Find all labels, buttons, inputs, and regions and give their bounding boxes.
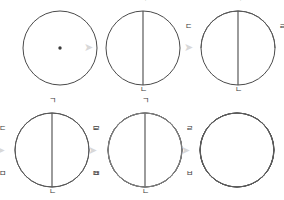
arc-giyeok-to-bieup: [237, 113, 274, 168]
right-arrow-icon: ➤: [184, 42, 193, 53]
arc-digeut-to-rieul: [200, 150, 274, 187]
step-3-panel: ㄱ ㄴ ㄷ ㄹ: [192, 2, 284, 94]
arc-giyeok-to-nieun-left: [200, 113, 237, 187]
point-label-rieul: ㄹ: [279, 23, 284, 31]
step-4-figure: [6, 104, 98, 196]
right-arrow-icon: ➤: [0, 145, 5, 156]
arc-giyeok-to-mieum: [108, 113, 145, 168]
point-label-digeut: ㄷ: [92, 125, 99, 133]
step-6-figure: [191, 104, 283, 196]
step-5-figure: [99, 104, 191, 196]
point-label-mieum: ㅁ: [0, 170, 6, 178]
point-label-digeut: ㄷ: [185, 23, 192, 31]
right-arrow-icon: ➤: [88, 145, 97, 156]
arc-nieun-to-digeut: [108, 132, 145, 187]
step-2-panel: ㄱ ㄴ: [97, 2, 189, 94]
step-5-panel: ㄱ ㄴ ㄷ ㄹ ㅁ ㅂ: [99, 104, 191, 196]
point-label-giyeok: ㄱ: [142, 97, 149, 105]
step-3-figure: [192, 2, 284, 94]
point-label-nieun: ㄴ: [49, 188, 56, 196]
arc-nieun-to-digeut: [200, 132, 237, 187]
arc-nieun-to-rieul: [145, 132, 182, 187]
point-label-nieun: ㄴ: [140, 86, 147, 94]
right-arrow-icon: ➤: [181, 145, 190, 156]
point-label-mieum: ㅁ: [92, 170, 99, 178]
arc-giyeok-to-bieup: [145, 113, 182, 168]
arc-nieun-to-rieul: [237, 132, 274, 187]
construction-diagram: ㄱ ㄴ ㄱ ㄴ ㄷ ㄹ ㄱ ㄴ ㄷ ㄹ ㅁ ㅂ: [0, 0, 284, 200]
arc-mieum-to-bieup: [200, 113, 274, 150]
step-4-panel: ㄱ ㄴ ㄷ ㄹ ㅁ ㅂ: [6, 104, 98, 196]
step-2-figure: [97, 2, 189, 94]
center-point-dot: [58, 46, 61, 49]
step-6-panel: [191, 104, 283, 196]
point-label-nieun: ㄴ: [142, 188, 149, 196]
point-label-giyeok: ㄱ: [235, 0, 242, 3]
point-label-giyeok: ㄱ: [49, 97, 56, 105]
arc-giyeok-to-nieun-right: [237, 113, 274, 187]
arc-giyeok-to-mieum: [200, 113, 237, 168]
point-label-nieun: ㄴ: [235, 86, 242, 94]
arc-giyeok-to-nieun-left: [108, 113, 145, 187]
point-label-giyeok: ㄱ: [140, 0, 147, 3]
right-arrow-icon: ➤: [84, 42, 93, 53]
point-label-digeut: ㄷ: [0, 125, 6, 133]
arc-giyeok-to-nieun-right: [145, 113, 182, 187]
